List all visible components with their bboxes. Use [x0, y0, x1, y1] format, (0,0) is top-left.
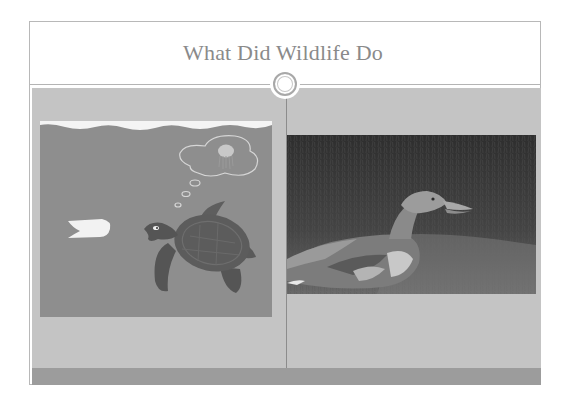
circle-emblem-icon [273, 72, 297, 96]
thought-bubble-icon [175, 136, 258, 207]
jellyfish-icon [218, 145, 234, 170]
sea-turtle-illustration[interactable] [40, 121, 272, 317]
wave-surface-icon [40, 121, 272, 130]
duck-photo[interactable] [287, 135, 536, 294]
bottom-band [32, 368, 541, 385]
turtle-icon [144, 201, 256, 293]
plastic-bag-icon [68, 219, 110, 238]
slide-title: What Did Wildlife Do [0, 40, 566, 66]
